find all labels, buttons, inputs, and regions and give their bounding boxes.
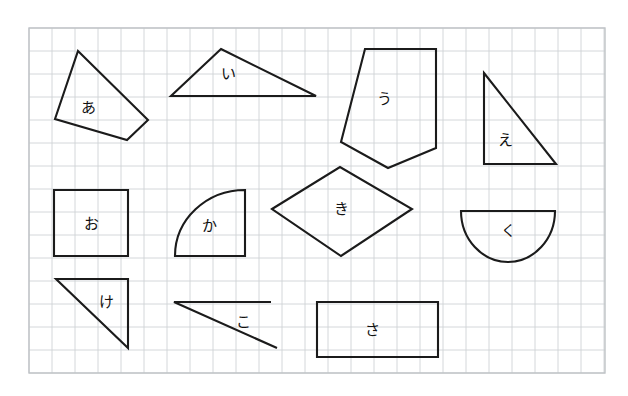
shape-ke-outline	[56, 279, 128, 348]
shape-ko: こ	[174, 302, 277, 348]
shape-i: い	[171, 49, 316, 96]
shape-a: あ	[55, 51, 148, 140]
shape-ku-label: く	[501, 222, 516, 240]
worksheet-canvas: あいうえおかきくけこさ	[0, 0, 628, 396]
shape-sa-label: さ	[365, 321, 380, 339]
shape-ku: く	[461, 211, 555, 262]
shape-ko-label: こ	[236, 313, 251, 331]
shape-ki-label: き	[334, 200, 349, 218]
shape-ki: き	[272, 167, 412, 256]
shape-u: う	[341, 49, 436, 168]
shape-e: え	[484, 73, 556, 164]
shape-u-label: う	[377, 90, 392, 108]
worksheet-page: あいうえおかきくけこさ	[0, 0, 628, 396]
shape-ka: か	[175, 190, 245, 256]
shape-e-label: え	[498, 131, 513, 149]
shape-e-outline	[484, 73, 556, 164]
shape-ka-label: か	[202, 217, 217, 235]
shape-i-label: い	[221, 65, 236, 83]
shape-i-outline	[171, 49, 316, 96]
shape-ke: け	[56, 279, 128, 348]
shape-a-outline	[55, 51, 148, 140]
shape-u-outline	[341, 49, 436, 168]
shape-o: お	[54, 190, 128, 256]
shape-o-label: お	[84, 215, 99, 233]
shape-a-label: あ	[81, 99, 96, 117]
shape-ko-outline	[174, 302, 277, 348]
shape-ke-label: け	[99, 293, 114, 311]
